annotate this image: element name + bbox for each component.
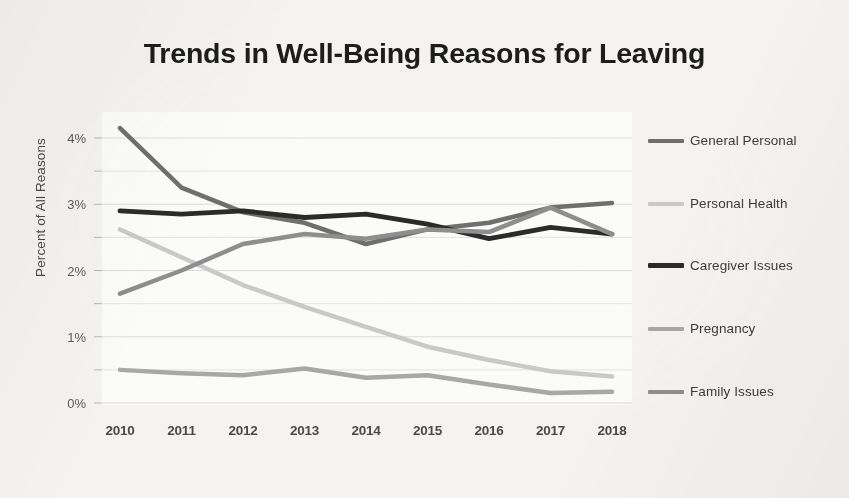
legend-line-swatch-icon [648,390,684,394]
legend-item-general-personal[interactable]: General Personal [648,133,797,148]
legend-item-label: Caregiver Issues [690,258,793,273]
legend-item-label: Pregnancy [690,321,755,336]
legend-line-swatch-icon [648,327,684,331]
legend-line-swatch-icon [648,263,684,268]
line-chart-canvas [0,0,849,498]
plot-area: Percent of All Reasons 0%1%2%3%4% 201020… [0,0,849,498]
legend-item-caregiver-issues[interactable]: Caregiver Issues [648,258,793,273]
legend-item-label: General Personal [690,133,797,148]
legend-line-swatch-icon [648,202,684,206]
legend-item-label: Personal Health [690,196,788,211]
legend-item-label: Family Issues [690,384,774,399]
legend-item-pregnancy[interactable]: Pregnancy [648,321,755,336]
legend-item-personal-health[interactable]: Personal Health [648,196,788,211]
legend-item-family-issues[interactable]: Family Issues [648,384,774,399]
legend-line-swatch-icon [648,139,684,143]
chart-screenshot: Trends in Well-Being Reasons for Leaving… [0,0,849,498]
